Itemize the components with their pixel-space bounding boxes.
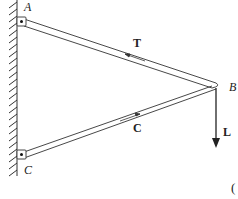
wall-support (9, 0, 17, 176)
point-label-c: C (24, 164, 32, 176)
load-arrow-icon (212, 88, 220, 148)
pin-a-icon (17, 17, 26, 26)
partial-text: ( (231, 181, 235, 194)
compression-label: C (133, 122, 142, 134)
point-label-b: B (229, 81, 236, 93)
member-cb (24, 86, 216, 158)
load-label: L (223, 126, 231, 138)
truss-diagram: A B C T C L ( (0, 0, 238, 199)
pin-c-icon (17, 150, 26, 159)
tension-label: T (133, 37, 141, 49)
truss-drawing (0, 0, 238, 199)
member-ab (24, 19, 218, 88)
point-label-a: A (24, 1, 31, 13)
